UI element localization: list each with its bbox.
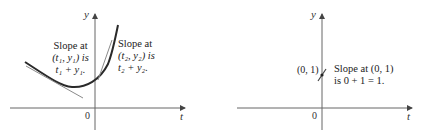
left-t-axis-label: t [180, 110, 183, 122]
right-y-axis-label: y [311, 8, 316, 20]
left-origin-label: 0 [85, 110, 90, 121]
right-t-axis-label: t [407, 110, 410, 122]
point-label: (0, 1) [297, 64, 319, 76]
annotation-1-line1: Slope at [48, 40, 93, 52]
annotation-point-1: Slope at (t₁, y₁) is t₁ + y₁. [48, 40, 93, 76]
point-0-1 [320, 73, 323, 76]
annotation-line2: is 0 + 1 = 1. [334, 75, 394, 87]
annotation-line1: Slope at (0, 1) [334, 63, 394, 75]
right-origin-label: 0 [312, 110, 317, 121]
annotation-1-line3: t₁ + y₁. [48, 64, 93, 76]
annotation-2-line2: (t₂, y₂) is [118, 50, 155, 62]
left-graph [10, 14, 185, 130]
annotation-point-2: Slope at (t₂, y₂) is t₂ + y₂. [118, 38, 155, 74]
annotation-1-line2: (t₁, y₁) is [48, 52, 93, 64]
left-y-axis-label: y [84, 8, 89, 20]
annotation-2-line3: t₂ + y₂. [118, 62, 155, 74]
annotation-point-0-1: Slope at (0, 1) is 0 + 1 = 1. [334, 63, 394, 87]
annotation-2-line1: Slope at [118, 38, 155, 50]
